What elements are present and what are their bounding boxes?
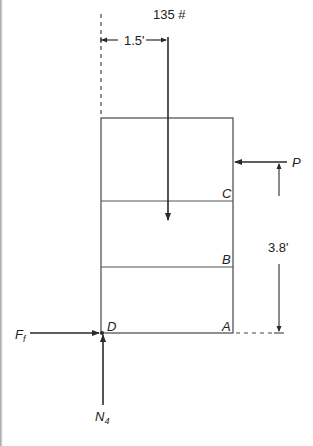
point-c-label: C: [222, 187, 231, 200]
point-a-label: A: [222, 320, 231, 333]
normal-force-subscript: 4: [104, 416, 109, 426]
block-outline: [101, 118, 233, 333]
friction-force-subscript: f: [23, 334, 26, 344]
point-b-label: B: [222, 253, 231, 266]
force-p-label: P: [292, 156, 301, 169]
offset-label: 1.5': [124, 34, 145, 47]
load-label: 135 #: [153, 8, 186, 21]
normal-force-symbol: N: [95, 409, 104, 424]
block-stack: [101, 118, 233, 333]
free-body-diagram: [0, 0, 313, 446]
point-d-label: D: [107, 320, 116, 333]
friction-force-symbol: F: [15, 327, 23, 342]
normal-force-label: N4: [95, 410, 109, 428]
height-label: 3.8': [268, 241, 289, 254]
friction-force-label: Ff: [15, 328, 25, 346]
point-d-dot: [100, 331, 104, 335]
